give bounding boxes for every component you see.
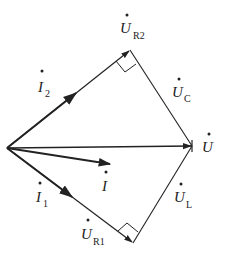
label-i1: I 1: [35, 182, 48, 210]
u-phasor: [7, 146, 191, 148]
right-angle-mark-top: [116, 61, 136, 72]
label-u-c: U C: [172, 78, 191, 105]
label-u-r2: U R2: [120, 14, 145, 42]
svg-text:C: C: [184, 93, 191, 104]
label-i2: I 2: [37, 70, 50, 100]
svg-text:U: U: [202, 139, 214, 155]
svg-text:1: 1: [43, 198, 48, 209]
phasor-diagram: U R2 I 2 U C U I I 1 U L U R1: [0, 0, 225, 255]
svg-text:U: U: [120, 20, 132, 36]
right-angle-mark-bottom: [118, 223, 138, 232]
svg-text:U: U: [174, 189, 186, 205]
svg-text:U: U: [81, 226, 93, 242]
i-phasor: [7, 148, 110, 164]
svg-text:R1: R1: [93, 236, 105, 247]
label-i: I: [101, 171, 108, 195]
label-u-r1: U R1: [81, 219, 105, 248]
svg-text:R2: R2: [133, 30, 145, 41]
svg-text:U: U: [172, 84, 184, 100]
label-u-l: U L: [174, 183, 192, 211]
svg-text:I: I: [35, 189, 42, 205]
svg-text:I: I: [37, 79, 44, 95]
svg-text:L: L: [186, 199, 192, 210]
svg-text:I: I: [101, 178, 108, 194]
svg-text:2: 2: [45, 88, 50, 99]
i2-phasor: [7, 93, 76, 148]
label-u: U: [202, 133, 214, 156]
